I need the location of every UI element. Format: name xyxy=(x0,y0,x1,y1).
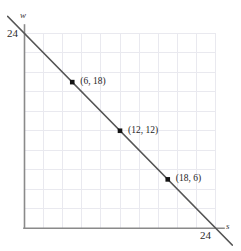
plot-area xyxy=(0,0,241,251)
data-point-label-1: (6, 18) xyxy=(80,77,105,87)
data-point-label-3: (18, 6) xyxy=(176,174,201,184)
y-axis-tick-label-24: 24 xyxy=(7,28,18,39)
data-point-marker-2 xyxy=(118,128,123,133)
x-axis-label: s xyxy=(226,222,230,231)
x-axis-tick-label-24: 24 xyxy=(200,230,211,241)
data-point-marker-3 xyxy=(165,177,170,182)
line-graph-figure: w s 24 24 (6, 18) (12, 12) (18, 6) xyxy=(0,0,241,251)
data-point-marker-1 xyxy=(70,80,75,85)
data-point-label-2: (12, 12) xyxy=(128,126,158,136)
axes xyxy=(24,25,224,228)
y-axis-label: w xyxy=(20,11,26,20)
